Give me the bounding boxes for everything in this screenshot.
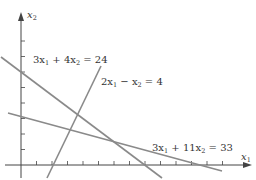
label-eq1: 3x1 + 4x2 = 24 — [33, 54, 108, 67]
label-eq2: 2x1 − x2 = 4 — [101, 76, 163, 89]
label-eq3: 3x1 + 11x2 = 33 — [152, 142, 233, 155]
y-ticks — [21, 41, 25, 150]
axes — [5, 20, 246, 178]
linear-constraints-diagram: 3x1 + 4x2 = 24 2x1 − x2 = 4 3x1 + 11x2 =… — [0, 0, 256, 180]
y-axis-label: x2 — [27, 9, 37, 22]
line-2x1-x2-4 — [47, 66, 101, 178]
y-axis-arrow-icon — [18, 12, 24, 21]
x-axis-label: x1 — [241, 151, 251, 164]
